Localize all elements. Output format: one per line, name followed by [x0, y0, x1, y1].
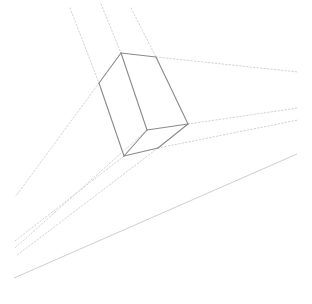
box-edge [156, 57, 188, 124]
horizon-line [14, 154, 297, 278]
left-vanishing-guide-line [15, 156, 124, 241]
box-edge [99, 83, 124, 156]
box-edge [121, 53, 147, 130]
right-vanishing-guide-line [158, 120, 298, 148]
box-edge [124, 148, 158, 156]
box-edge [121, 53, 156, 57]
left-vanishing-guide-line [16, 148, 158, 256]
box-wireframe [99, 53, 188, 156]
vertical-guide-line [70, 8, 99, 83]
vertical-guide-line [131, 8, 156, 57]
box-edge [99, 53, 121, 83]
perspective-guide-lines [15, 4, 298, 256]
right-vanishing-guide-line [188, 108, 298, 124]
left-vanishing-guide-line [16, 83, 99, 196]
left-vanishing-guide-line [15, 130, 147, 248]
perspective-drawing-canvas [0, 0, 312, 304]
box-edge [124, 130, 147, 156]
vertical-guide-line [101, 4, 121, 53]
right-vanishing-guide-line [156, 57, 298, 72]
